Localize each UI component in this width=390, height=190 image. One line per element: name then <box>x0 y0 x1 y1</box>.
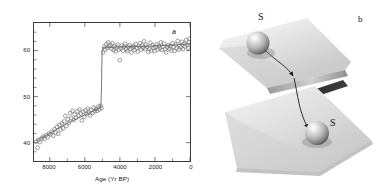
panel-b-catastrophe-diagram: S S b <box>195 0 390 190</box>
x-tick-label: 2000 <box>149 164 162 170</box>
scatter-points <box>34 37 190 150</box>
y-axis-tick-labels: 405060 <box>0 22 30 162</box>
x-axis-title: Age (Yr BP) <box>33 175 191 182</box>
panel-a-scatter-plot: Terrigenous sediment (%) 405060 80006000… <box>0 0 195 190</box>
figure-container: Terrigenous sediment (%) 405060 80006000… <box>0 0 390 190</box>
y-tick-label: 50 <box>23 94 30 100</box>
panel-b-label: b <box>358 14 363 24</box>
fold-manifold-graphic <box>195 0 390 190</box>
upper-state-label: S <box>258 11 264 22</box>
x-tick-label: 6000 <box>78 164 91 170</box>
plot-data-canvas <box>34 23 190 161</box>
y-tick-label: 60 <box>23 47 30 53</box>
upper-state-sphere <box>247 32 270 55</box>
x-tick-label: 4000 <box>113 164 126 170</box>
x-tick-label: 0 <box>189 164 192 170</box>
x-tick-label: 8000 <box>42 164 55 170</box>
panel-a-label: a <box>172 26 176 36</box>
lower-state-sphere <box>305 121 329 145</box>
lower-state-label: S <box>330 117 336 128</box>
y-tick-label: 40 <box>23 140 30 146</box>
plot-frame <box>33 22 191 162</box>
